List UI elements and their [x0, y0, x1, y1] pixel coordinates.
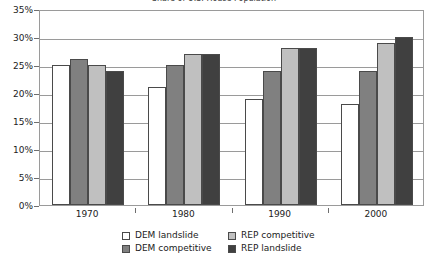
legend-swatch-icon: [122, 245, 130, 253]
y-tick-label: 0%: [0, 201, 33, 211]
bar: [184, 54, 202, 205]
x-tick-label: 1970: [39, 208, 135, 220]
bar: [281, 48, 299, 205]
x-tick-label: 1980: [135, 208, 231, 220]
bar-chart: Share of U.S. House Population 0%5%10%15…: [0, 0, 428, 261]
legend-label: DEM competitive: [135, 243, 212, 254]
legend-label: REP competitive: [241, 230, 315, 241]
bar: [52, 65, 70, 205]
bar: [359, 71, 377, 205]
legend-item[interactable]: DEM competitive: [122, 243, 212, 254]
y-tick-label: 5%: [0, 173, 33, 183]
chart-title: Share of U.S. House Population: [0, 0, 428, 4]
y-tick-label: 20%: [0, 89, 33, 99]
x-tick-label: 2000: [328, 208, 424, 220]
bar: [202, 54, 220, 205]
bar: [106, 71, 124, 205]
bar-group: [40, 11, 136, 205]
bar-group: [233, 11, 329, 205]
bar: [377, 43, 395, 205]
y-tick-label: 15%: [0, 117, 33, 127]
legend-swatch-icon: [228, 232, 236, 240]
x-tick-mark: [135, 208, 136, 213]
bar: [395, 37, 413, 205]
plot-area: [39, 10, 424, 206]
x-tick-mark: [232, 208, 233, 213]
bar: [88, 65, 106, 205]
x-tick-mark: [328, 208, 329, 213]
bar: [70, 59, 88, 205]
bar: [341, 104, 359, 205]
legend-item[interactable]: REP landslide: [228, 243, 302, 254]
bar-group: [136, 11, 232, 205]
bar: [299, 48, 317, 205]
legend-swatch-icon: [122, 232, 130, 240]
y-tick-label: 35%: [0, 5, 33, 15]
y-tick-label: 25%: [0, 61, 33, 71]
y-tick-label: 10%: [0, 145, 33, 155]
legend-swatch-icon: [228, 245, 236, 253]
x-tick-label: 1990: [232, 208, 328, 220]
chart-legend: DEM landslideDEM competitiveREP competit…: [0, 230, 428, 260]
bar: [166, 65, 184, 205]
legend-label: DEM landslide: [135, 230, 199, 241]
bar: [148, 87, 166, 205]
bar: [245, 99, 263, 205]
legend-label: REP landslide: [241, 243, 302, 254]
x-axis: 1970198019902000: [39, 208, 424, 224]
bar: [263, 71, 281, 205]
legend-item[interactable]: REP competitive: [228, 230, 315, 241]
y-tick-mark: [34, 206, 39, 207]
y-tick-label: 30%: [0, 33, 33, 43]
bar-group: [329, 11, 425, 205]
legend-item[interactable]: DEM landslide: [122, 230, 199, 241]
y-axis: 0%5%10%15%20%25%30%35%: [0, 0, 33, 216]
